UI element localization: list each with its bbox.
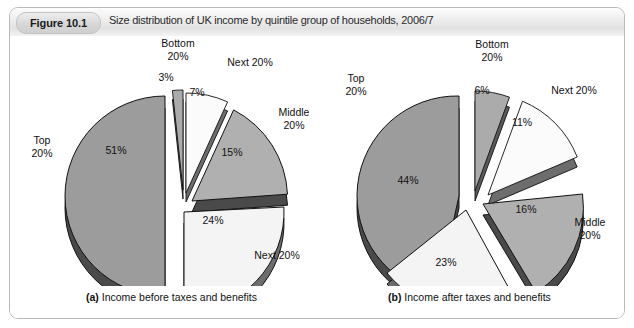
callout-middle-line2: 20% bbox=[283, 119, 304, 131]
caption-a-letter: (a) bbox=[86, 291, 99, 303]
callout-top-line2: 20% bbox=[31, 147, 52, 159]
value-label-bottom: 3% bbox=[158, 71, 173, 83]
callout-top-line1: Top bbox=[348, 72, 365, 84]
callout-next-upper: Next 20% bbox=[551, 84, 597, 96]
callout-next-upper: Next 20% bbox=[227, 56, 273, 68]
value-label-next-upper: 7% bbox=[189, 86, 204, 98]
caption-b-letter: (b) bbox=[388, 291, 401, 303]
figure-title: Size distribution of UK income by quinti… bbox=[109, 14, 433, 26]
callout-bottom-line2: 20% bbox=[481, 51, 502, 63]
callout-next-lower: Next 20% bbox=[254, 249, 300, 261]
pie-chart-income-after: 44% 6% 11% 16% 23% Top 20% Bottom 20% Ne… bbox=[316, 36, 624, 286]
callout-bottom-line1: Bottom bbox=[475, 38, 509, 50]
slice-top-20 bbox=[65, 96, 165, 286]
caption-b-text: Income after taxes and benefits bbox=[404, 291, 551, 303]
callout-middle-line1: Middle bbox=[575, 216, 606, 228]
callout-middle-line1: Middle bbox=[279, 106, 310, 118]
callout-top-line2: 20% bbox=[345, 85, 366, 97]
figure-body: 51% 3% 7% 15% 24% Top 20% Bottom 20% Nex… bbox=[10, 36, 624, 319]
figure-card: Figure 10.1 Size distribution of UK inco… bbox=[9, 7, 625, 319]
value-label-middle: 16% bbox=[515, 203, 536, 215]
value-label-bottom: 6% bbox=[474, 84, 489, 96]
figure-header-bar: Figure 10.1 Size distribution of UK inco… bbox=[10, 8, 624, 37]
figure-number-badge: Figure 10.1 bbox=[16, 12, 101, 34]
slice-next-20-lower bbox=[184, 207, 284, 286]
caption-a-text: Income before taxes and benefits bbox=[102, 291, 257, 303]
value-label-middle: 15% bbox=[221, 146, 242, 158]
caption-chart-a: (a) Income before taxes and benefits bbox=[86, 291, 257, 303]
value-label-next-upper: 11% bbox=[512, 116, 532, 128]
pie-chart-income-before: 51% 3% 7% 15% 24% Top 20% Bottom 20% Nex… bbox=[12, 36, 320, 286]
callout-bottom-line2: 20% bbox=[167, 50, 188, 62]
callout-middle-line2: 20% bbox=[579, 229, 600, 241]
value-label-next-lower: 23% bbox=[435, 256, 456, 268]
callout-top-line1: Top bbox=[34, 134, 51, 146]
caption-chart-b: (b) Income after taxes and benefits bbox=[388, 291, 551, 303]
value-label-top: 51% bbox=[105, 144, 126, 156]
value-label-next-lower: 24% bbox=[202, 214, 223, 226]
value-label-top: 44% bbox=[397, 174, 418, 186]
slice-bottom-20 bbox=[172, 90, 183, 199]
callout-bottom-line1: Bottom bbox=[161, 37, 195, 49]
